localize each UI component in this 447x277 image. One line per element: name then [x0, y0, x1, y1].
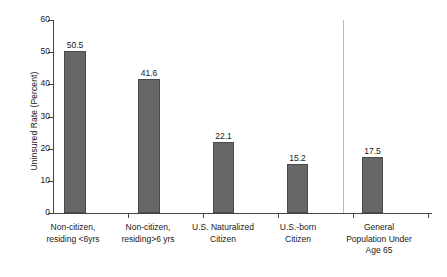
bar-value-label: 17.5	[364, 146, 381, 156]
y-tick-label-0: 0	[45, 207, 50, 217]
x-tick-3	[278, 213, 279, 218]
y-tick-label-10: 10	[41, 175, 50, 185]
y-tick-label-30: 30	[41, 111, 50, 121]
bar-value-label: 41.6	[141, 68, 158, 78]
group-separator-line	[343, 20, 344, 213]
x-tick-4	[353, 213, 354, 218]
bar-chart: Uninsured Rate (Percent) 0 10 20 30 40 5…	[0, 0, 447, 277]
bar-us-born-citizen[interactable]: 15.2	[287, 164, 308, 213]
bar-non-citizen-over-6yrs[interactable]: 41.6	[138, 79, 160, 213]
y-tick-label-50: 50	[41, 46, 50, 56]
bar-value-label: 50.5	[67, 40, 84, 50]
bar-value-label: 15.2	[289, 153, 306, 163]
category-label-line: General	[327, 222, 431, 234]
bar-non-citizen-under-6yrs[interactable]: 50.5	[64, 51, 86, 213]
bar-value-label: 22.1	[215, 131, 232, 141]
bar-general-population-under-65[interactable]: 17.5	[362, 157, 383, 213]
x-tick-2	[203, 213, 204, 218]
category-label-general-population-under-65: General Population Under Age 65	[327, 222, 431, 257]
y-tick-label-20: 20	[41, 143, 50, 153]
y-tick-label-40: 40	[41, 78, 50, 88]
y-tick-label-60: 60	[41, 14, 50, 24]
bar-us-naturalized-citizen[interactable]: 22.1	[213, 142, 234, 213]
x-tick-5	[428, 213, 429, 218]
plot-area: 0 10 20 30 40 50 60	[53, 20, 432, 213]
y-axis-title: Uninsured Rate (Percent)	[29, 21, 39, 221]
category-label-line: Population Under	[327, 234, 431, 246]
x-tick-1	[128, 213, 129, 218]
x-axis-line	[53, 213, 432, 214]
category-label-line: Age 65	[327, 245, 431, 257]
y-axis-line	[53, 20, 54, 213]
